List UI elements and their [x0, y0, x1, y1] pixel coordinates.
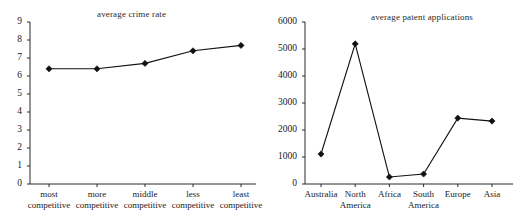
x-category-label-line1: more: [88, 189, 107, 199]
axes-crime-rate: [27, 22, 256, 187]
x-category-label-line2: America: [326, 200, 384, 211]
y-tick-label: 1000: [267, 151, 297, 161]
x-category-label-line1: less: [186, 189, 200, 199]
y-tick-label: 3: [0, 124, 22, 134]
x-category-label: Asia: [463, 189, 520, 200]
x-category-label-line1: middle: [133, 189, 158, 199]
series-crime-rate: [46, 42, 244, 72]
y-tick-label: 5: [0, 88, 22, 98]
y-tick-label: 3000: [267, 97, 297, 107]
data-point-marker: [455, 115, 461, 121]
data-point-marker: [352, 41, 358, 47]
x-category-label-line2: America: [395, 200, 453, 211]
y-tick-label: 2: [0, 142, 22, 152]
y-tick-label: 1: [0, 160, 22, 170]
data-point-marker: [386, 174, 392, 180]
data-point-marker: [421, 171, 427, 177]
data-point-marker: [489, 118, 495, 124]
data-point-marker: [190, 48, 196, 54]
chart-panel-patent-applications: average patent applications 010002000300…: [258, 0, 520, 223]
x-category-label-line1: most: [40, 189, 58, 199]
y-tick-label: 6: [0, 70, 22, 80]
x-category-label-line1: Asia: [484, 189, 501, 199]
y-tick-label: 9: [0, 16, 22, 26]
y-tick-label: 0: [267, 178, 297, 188]
data-point-marker: [94, 66, 100, 72]
series-patent-applications: [318, 41, 495, 180]
data-point-marker: [46, 66, 52, 72]
y-tick-label: 6000: [267, 16, 297, 26]
x-category-label-line1: least: [233, 189, 250, 199]
data-point-marker: [318, 151, 324, 157]
y-tick-label: 5000: [267, 43, 297, 53]
y-tick-label: 0: [0, 178, 22, 188]
data-point-marker: [142, 60, 148, 66]
y-tick-label: 4: [0, 106, 22, 116]
y-tick-label: 7: [0, 52, 22, 62]
axes-patent-applications: [302, 22, 513, 187]
y-tick-label: 2000: [267, 124, 297, 134]
y-tick-label: 4000: [267, 70, 297, 80]
chart-panel-crime-rate: average crime rate 0123456789 mostcompet…: [0, 0, 262, 223]
data-point-marker: [238, 42, 244, 48]
y-tick-label: 8: [0, 34, 22, 44]
